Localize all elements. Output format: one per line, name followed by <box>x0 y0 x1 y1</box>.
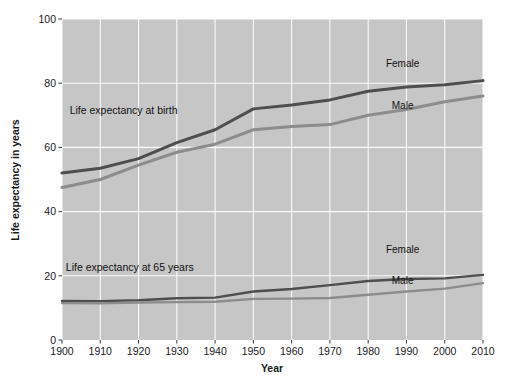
ytick-label-100: 100 <box>38 13 56 25</box>
ytick-label-40: 40 <box>44 205 56 217</box>
xtick-label-1980: 1980 <box>357 345 381 357</box>
xtick-label-2000: 2000 <box>433 345 457 357</box>
ytick-label-20: 20 <box>44 270 56 282</box>
xtick-label-1970: 1970 <box>318 345 342 357</box>
series-label-at-65-years-female: Female <box>386 244 420 255</box>
annotation-label-0: Life expectancy at birth <box>70 104 178 116</box>
ytick-label-0: 0 <box>50 334 56 346</box>
xtick-label-1940: 1940 <box>203 345 227 357</box>
ytick-label-80: 80 <box>44 77 56 89</box>
xtick-label-1920: 1920 <box>127 345 151 357</box>
x-axis-title: Year <box>261 362 283 374</box>
xtick-label-1910: 1910 <box>89 345 113 357</box>
chart-container: 1900191019201930194019501960197019801990… <box>0 0 509 379</box>
ytick-label-60: 60 <box>44 141 56 153</box>
xtick-label-1950: 1950 <box>242 345 266 357</box>
xtick-label-1990: 1990 <box>395 345 419 357</box>
series-label-at-birth-male: Male <box>392 100 414 111</box>
y-axis-title: Life expectancy in years <box>9 119 21 241</box>
life-expectancy-line-chart: 1900191019201930194019501960197019801990… <box>0 0 509 379</box>
annotation-label-1: Life expectancy at 65 years <box>66 261 194 273</box>
xtick-label-1930: 1930 <box>165 345 189 357</box>
xtick-label-1900: 1900 <box>50 345 74 357</box>
series-label-at-birth-female: Female <box>386 58 420 69</box>
xtick-label-1960: 1960 <box>280 345 304 357</box>
series-label-at-65-years-male: Male <box>392 275 414 286</box>
xtick-label-2010: 2010 <box>471 345 495 357</box>
plot-area-background <box>62 19 483 340</box>
